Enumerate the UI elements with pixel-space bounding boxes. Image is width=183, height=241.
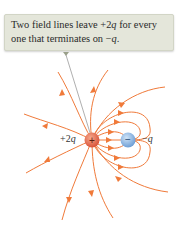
svg-text:−: − xyxy=(125,134,131,145)
svg-text:+: + xyxy=(89,135,95,146)
positive-charge-label: +2q xyxy=(60,133,76,144)
field-line-diagram: + − xyxy=(0,0,183,241)
negative-charge-label: −q xyxy=(142,133,153,144)
pointer-line xyxy=(66,55,91,136)
arrowheads xyxy=(42,86,125,203)
